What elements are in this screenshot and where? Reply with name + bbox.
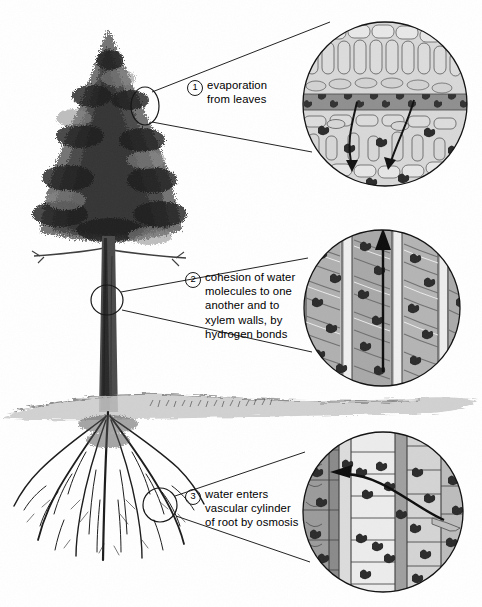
callout-text-3: water enters vascular cylinder of root b…: [205, 487, 340, 530]
callout-text-1: evaporation from leaves: [207, 78, 327, 106]
figure-canvas: 1 evaporation from leaves 2 cohesion of …: [0, 0, 482, 607]
callout-text-2: cohesion of water molecules to one anoth…: [205, 270, 330, 341]
callout-number-2: 2: [185, 272, 201, 288]
callout-number-3: 3: [185, 489, 201, 505]
callout-number-1: 1: [187, 80, 203, 96]
